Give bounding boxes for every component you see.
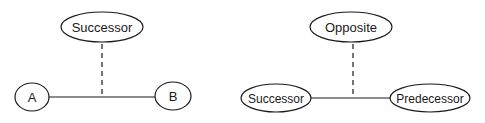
- right-node-successor-label: Successor: [248, 92, 304, 106]
- left-node-b-label: B: [169, 89, 178, 104]
- diagram-canvas: Successor A B Opposite Successor Predece…: [0, 0, 485, 123]
- right-node-predecessor-label: Predecessor: [396, 92, 463, 106]
- right-top-label: Opposite: [325, 20, 377, 35]
- left-node-a-label: A: [28, 90, 37, 105]
- left-top-label: Successor: [72, 20, 133, 35]
